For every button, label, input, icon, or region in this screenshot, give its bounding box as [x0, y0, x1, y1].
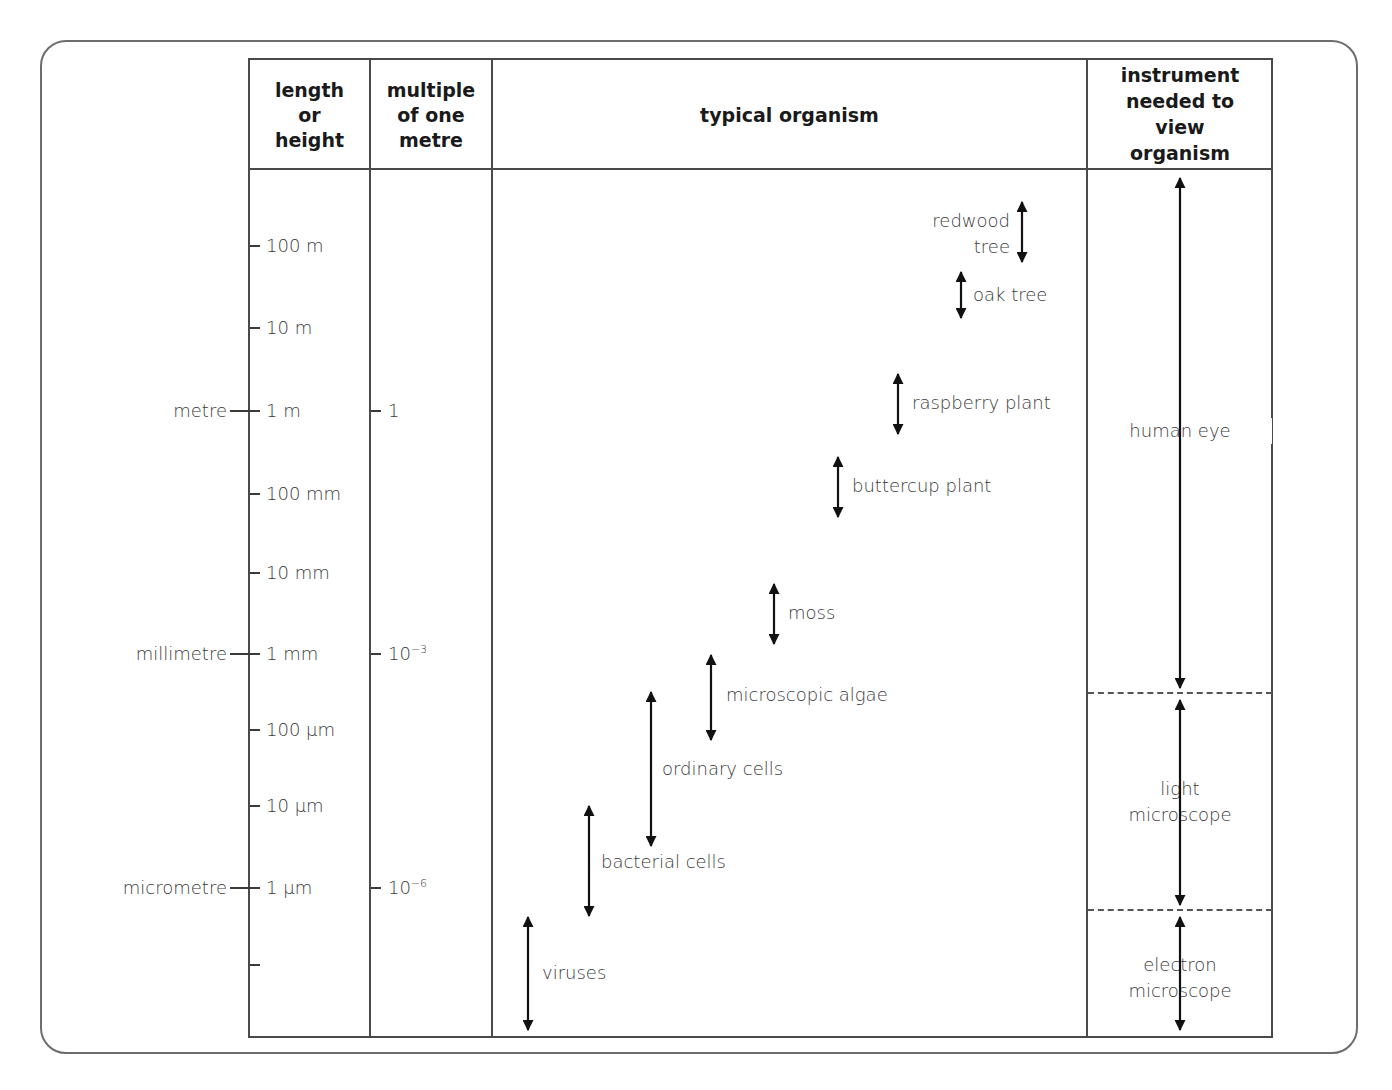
organism-size-arrows — [528, 202, 1022, 1030]
arrows-layer — [0, 0, 1392, 1090]
